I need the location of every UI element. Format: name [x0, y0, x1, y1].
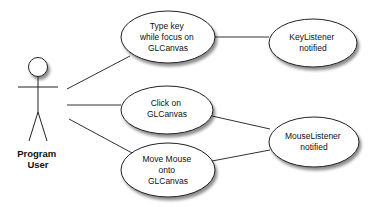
outcome-mouselistener-line1: MouseListener — [285, 131, 341, 141]
actor-head-icon — [29, 58, 48, 77]
actor-program-user: Program User — [17, 58, 59, 171]
outcome-keylistener-notified: KeyListener notified — [269, 19, 357, 67]
actor-label-line2: User — [27, 159, 48, 170]
use-case-click-line1: Click on — [151, 98, 182, 108]
use-case-move-mouse-line2: onto — [159, 165, 176, 175]
outcome-mouselistener-notified: MouseListener notified — [269, 117, 359, 167]
actor-label-line1: Program — [17, 148, 56, 159]
actor-left-leg — [29, 112, 38, 141]
use-case-type-key: Type key while focus on GLCanvas — [121, 11, 215, 63]
association-actor-move-mouse — [69, 119, 134, 154]
outcome-keylistener-line1: KeyListener — [289, 32, 334, 42]
use-case-type-key-line2: while focus on — [139, 32, 194, 42]
svg-text:Program User: Program User — [17, 148, 59, 170]
use-case-move-mouse-line3: GLCanvas — [148, 176, 188, 186]
use-case-type-key-line3: GLCanvas — [148, 43, 188, 53]
use-case-type-key-line1: Type key — [150, 21, 185, 31]
use-case-move-mouse-line1: Move Mouse — [142, 154, 191, 164]
use-case-diagram: Program User Type key while focus on GLC… — [0, 0, 380, 207]
outcome-mouselistener-line2: notified — [300, 142, 328, 152]
association-click-mouselistener — [212, 116, 270, 129]
association-move-mouse-mouselistener — [212, 150, 270, 161]
svg-text:Click on GLCanvas: Click on GLCanvas — [147, 98, 187, 119]
use-case-click: Click on GLCanvas — [121, 86, 213, 134]
use-case-move-mouse: Move Mouse onto GLCanvas — [121, 143, 215, 197]
use-case-click-line2: GLCanvas — [147, 109, 187, 119]
actor-right-leg — [38, 112, 47, 141]
outcome-keylistener-line2: notified — [299, 43, 327, 53]
association-actor-type-key — [67, 56, 130, 89]
